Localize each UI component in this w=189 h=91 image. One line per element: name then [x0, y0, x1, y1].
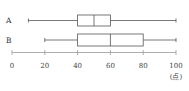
tick-label: 40: [73, 62, 82, 70]
box-b: B: [6, 34, 176, 46]
boxplot-chart: AB 020406080100 (点): [0, 0, 189, 91]
series-label: B: [6, 36, 12, 45]
unit-label: (点): [170, 73, 183, 81]
tick-label: 20: [40, 62, 49, 70]
x-axis: 020406080100: [10, 50, 183, 70]
tick-label: 0: [10, 62, 14, 70]
boxes-group: AB: [5, 15, 176, 46]
tick-label: 100: [169, 62, 182, 70]
box-a: A: [5, 15, 176, 26]
tick-label: 60: [106, 62, 115, 70]
tick-label: 80: [139, 62, 148, 70]
series-label: A: [5, 16, 12, 25]
